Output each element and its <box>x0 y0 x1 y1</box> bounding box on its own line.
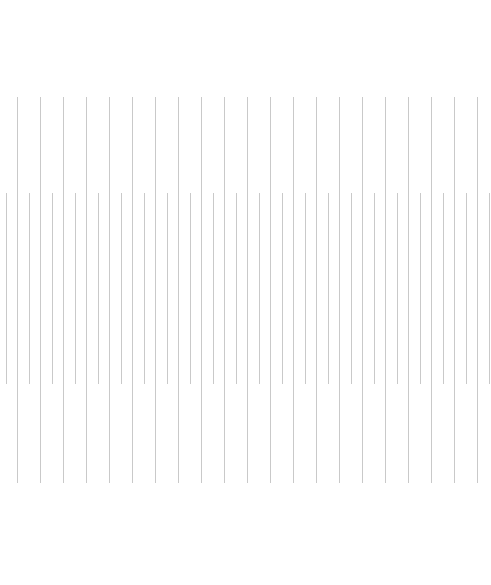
band-b-line <box>443 193 444 384</box>
band-a-line <box>316 97 317 483</box>
band-b-line <box>420 193 421 384</box>
band-a-line <box>408 97 409 483</box>
band-a-line <box>63 97 64 483</box>
band-b-line <box>397 193 398 384</box>
band-b-line <box>489 193 490 384</box>
band-a-line <box>385 97 386 483</box>
band-b-line <box>259 193 260 384</box>
band-b-line <box>29 193 30 384</box>
band-a-line <box>178 97 179 483</box>
band-b-line <box>75 193 76 384</box>
band-a-line <box>454 97 455 483</box>
band-b-line <box>305 193 306 384</box>
band-a-line <box>109 97 110 483</box>
band-b-line <box>282 193 283 384</box>
band-a-line <box>293 97 294 483</box>
band-a-line <box>477 97 478 483</box>
band-a-line <box>431 97 432 483</box>
band-b-line <box>167 193 168 384</box>
band-a-line <box>155 97 156 483</box>
band-b-line <box>466 193 467 384</box>
band-b-line <box>374 193 375 384</box>
band-b-line <box>6 193 7 384</box>
band-a-line <box>247 97 248 483</box>
band-a-line <box>86 97 87 483</box>
band-a-line <box>224 97 225 483</box>
band-a-line <box>201 97 202 483</box>
band-a-line <box>270 97 271 483</box>
band-a-line <box>362 97 363 483</box>
band-a-line <box>132 97 133 483</box>
band-b-line <box>98 193 99 384</box>
band-b-line <box>328 193 329 384</box>
band-b-line <box>121 193 122 384</box>
band-a-line <box>17 97 18 483</box>
band-b-line <box>213 193 214 384</box>
band-b-line <box>144 193 145 384</box>
band-b-line <box>236 193 237 384</box>
band-b-line <box>190 193 191 384</box>
band-b-line <box>351 193 352 384</box>
band-a-line <box>40 97 41 483</box>
band-a-line <box>339 97 340 483</box>
band-b-line <box>52 193 53 384</box>
